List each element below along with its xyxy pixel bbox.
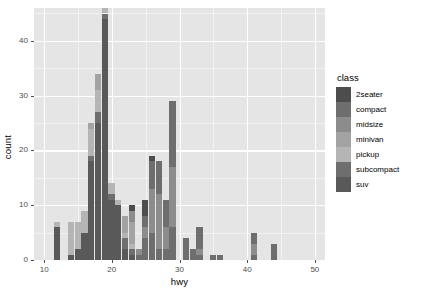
x-tick-mark <box>44 260 45 263</box>
bar-segment <box>190 249 196 260</box>
y-axis-title: count <box>0 0 14 294</box>
legend-item-minivan[interactable]: minivan <box>336 132 420 147</box>
legend-item-midsize[interactable]: midsize <box>336 117 420 132</box>
gridline-major-x <box>44 8 45 260</box>
legend-swatch-icon <box>336 117 351 132</box>
y-tick-label: 0 <box>24 255 28 264</box>
y-tick-label: 30 <box>19 91 28 100</box>
bar-segment <box>156 161 162 194</box>
x-tick-mark <box>315 260 316 263</box>
gridline-major-x <box>180 8 181 260</box>
bar-segment <box>129 222 135 244</box>
x-tick-mark <box>247 260 248 263</box>
x-axis-title: hwy <box>34 276 325 287</box>
bar-segment <box>136 249 142 254</box>
chart-root: count 010203040 1020304050 hwy class 2se… <box>0 0 422 294</box>
x-tick-mark <box>112 260 113 263</box>
legend-item-label: compact <box>356 105 386 114</box>
bar-segment <box>149 161 155 188</box>
gridline-major-y <box>34 41 325 42</box>
bar-segment <box>129 255 135 260</box>
bar-segment <box>122 249 128 260</box>
gridline-major-y <box>34 96 325 97</box>
bar-segment <box>68 222 74 255</box>
y-tick-label: 10 <box>19 200 28 209</box>
bar-segment <box>271 244 277 260</box>
legend-item-label: 2seater <box>356 90 383 99</box>
bar-segment <box>156 194 162 249</box>
bar-segment <box>122 238 128 249</box>
legend-item-pickup[interactable]: pickup <box>336 147 420 162</box>
bar-segment <box>196 249 202 254</box>
bar-segment <box>129 244 135 249</box>
gridline-major-x <box>315 8 316 260</box>
bar-segment <box>142 216 148 227</box>
x-tick-label: 20 <box>107 265 116 274</box>
bar-segment <box>68 255 74 260</box>
legend-item-suv[interactable]: suv <box>336 177 420 192</box>
legend-items: 2seatercompactmidsizeminivanpickupsubcom… <box>336 87 420 192</box>
y-tick-label: 20 <box>19 145 28 154</box>
legend-swatch-icon <box>336 87 351 102</box>
legend-item-label: midsize <box>356 120 383 129</box>
gridline-minor-x <box>281 8 282 260</box>
x-tick-label: 40 <box>243 265 252 274</box>
legend-swatch-icon <box>336 162 351 177</box>
bar-segment <box>81 211 87 233</box>
bar-segment <box>251 255 257 260</box>
bar-segment <box>163 227 169 249</box>
legend-title: class <box>336 72 420 83</box>
gridline-major-y <box>34 205 325 206</box>
y-tick-mark <box>31 260 34 261</box>
bar-segment <box>95 74 101 90</box>
bar-segment <box>75 249 81 260</box>
legend-item-label: minivan <box>356 135 384 144</box>
legend-item-2seater[interactable]: 2seater <box>336 87 420 102</box>
bar-segment <box>115 200 121 205</box>
bar-segment <box>149 233 155 260</box>
legend-item-compact[interactable]: compact <box>336 102 420 117</box>
bar-segment <box>102 8 108 13</box>
bar-segment <box>88 161 94 260</box>
bar-segment <box>149 156 155 161</box>
bar-segment <box>75 222 81 249</box>
bar-segment <box>95 90 101 112</box>
bar-segment <box>95 112 101 123</box>
bar-segment <box>88 129 94 156</box>
bar-segment <box>108 200 114 260</box>
bar-segment <box>210 255 216 260</box>
bar-segment <box>251 244 257 255</box>
bar-segment <box>169 227 175 260</box>
bar-segment <box>169 101 175 167</box>
legend-item-subcompact[interactable]: subcompact <box>336 162 420 177</box>
bar-segment <box>163 249 169 260</box>
bar-segment <box>196 255 202 260</box>
legend-item-label: subcompact <box>356 165 399 174</box>
legend-item-label: pickup <box>356 150 379 159</box>
bar-segment <box>142 200 148 216</box>
legend-swatch-icon <box>336 102 351 117</box>
bar-segment <box>102 14 108 19</box>
bar-segment <box>81 233 87 260</box>
gridline-major-y <box>34 150 325 151</box>
bar-segment <box>102 19 108 260</box>
bar-segment <box>196 227 202 249</box>
bar-segment <box>122 233 128 238</box>
bar-segment <box>183 238 189 249</box>
plot-panel <box>34 8 325 260</box>
legend: class 2seatercompactmidsizeminivanpickup… <box>336 72 420 192</box>
x-tick-label: 50 <box>310 265 319 274</box>
legend-item-label: suv <box>356 180 368 189</box>
legend-swatch-icon <box>336 147 351 162</box>
bar-segment <box>95 123 101 260</box>
bar-segment <box>183 249 189 260</box>
bar-segment <box>149 189 155 233</box>
legend-swatch-icon <box>336 132 351 147</box>
gridline-minor-x <box>213 8 214 260</box>
bar-segment <box>54 222 60 227</box>
bar-segment <box>163 200 169 227</box>
x-tick-label: 10 <box>40 265 49 274</box>
bar-segment <box>142 238 148 260</box>
y-tick-label: 40 <box>19 36 28 45</box>
x-tick-label: 30 <box>175 265 184 274</box>
